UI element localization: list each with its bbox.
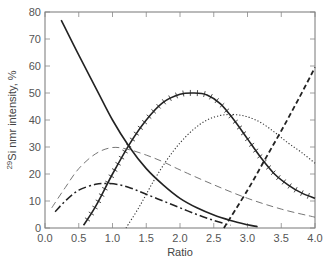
x-tick-label: 1.0	[105, 232, 120, 244]
x-tick-label: 0.5	[71, 232, 86, 244]
chart: 0.00.51.01.52.02.53.03.54.0 010203040506…	[0, 0, 329, 263]
y-tick-labels: 01020304050607080	[29, 6, 41, 234]
x-tick-label: 1.5	[139, 232, 154, 244]
y-tick-label: 30	[29, 141, 41, 153]
series-dash-dot	[55, 183, 231, 225]
plot-frame	[45, 12, 315, 228]
x-axis-label: Ratio	[167, 246, 193, 258]
y-tick-label: 20	[29, 168, 41, 180]
y-tick-label: 70	[29, 33, 41, 45]
y-tick-label: 50	[29, 87, 41, 99]
y-tick-label: 60	[29, 60, 41, 72]
series-solid-with-ticks	[84, 93, 316, 225]
x-tick-label: 2.5	[206, 232, 221, 244]
series-group	[52, 20, 315, 228]
series-thick-dashed-rising	[224, 67, 315, 228]
y-tick-label: 0	[35, 222, 41, 234]
x-tick-label: 3.0	[240, 232, 255, 244]
x-tick-label: 4.0	[307, 232, 322, 244]
series-dotted	[126, 115, 315, 228]
y-tick-label: 40	[29, 114, 41, 126]
series-tick-mark	[183, 91, 184, 97]
x-tick-label: 3.5	[274, 232, 289, 244]
axis-ticks	[45, 12, 315, 228]
series-solid-decreasing	[61, 20, 257, 227]
y-axis-label-text: Si nmr intensity, %	[6, 70, 18, 160]
y-tick-label: 10	[29, 195, 41, 207]
x-tick-labels: 0.00.51.01.52.02.53.03.54.0	[37, 232, 322, 244]
y-tick-label: 80	[29, 6, 41, 18]
y-axis-label: 29Si nmr intensity, %	[5, 70, 19, 169]
series-long-dash-thin	[52, 147, 315, 217]
x-tick-label: 2.0	[172, 232, 187, 244]
